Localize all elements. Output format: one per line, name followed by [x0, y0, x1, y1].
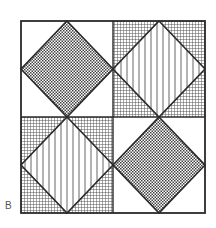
cell-bottom-right [113, 117, 205, 213]
figure-label: B [5, 200, 12, 211]
cell-bottom-left [21, 117, 113, 213]
cell-top-right [113, 21, 205, 117]
cell-top-left [21, 21, 113, 117]
quilt-block-diagram [0, 0, 216, 228]
